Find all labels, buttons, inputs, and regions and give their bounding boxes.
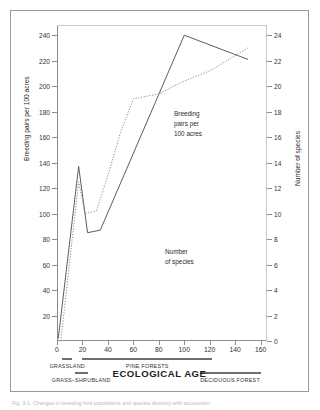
x-axis-title: ECOLOGICAL AGE: [11, 368, 308, 379]
x-tick-label: 80: [155, 346, 163, 353]
x-tick-label: 100: [179, 346, 190, 353]
x-tick: [261, 341, 262, 345]
y-tick-label-left: 240: [39, 32, 50, 39]
y-tick-right: [267, 86, 272, 87]
x-tick: [82, 341, 83, 345]
x-tick-label: 20: [79, 346, 87, 353]
x-tick: [184, 341, 185, 345]
y-tick-label-right: 10: [274, 210, 281, 217]
x-tick-label: 0: [55, 346, 59, 353]
y-tick-label-left: 200: [39, 83, 50, 90]
y-tick-label-right: 16: [274, 134, 281, 141]
y-tick-label-left: 180: [39, 108, 50, 115]
y-tick-right: [267, 112, 272, 113]
y-tick-label-left: 60: [43, 261, 50, 268]
y-tick-right: [267, 341, 272, 342]
y-tick-right: [267, 137, 272, 138]
y-tick-right: [267, 239, 272, 240]
annotation-line: Number: [165, 247, 194, 257]
habitat-band-bar: [82, 358, 212, 360]
y-tick-label-right: 18: [274, 108, 281, 115]
y-tick-right: [267, 214, 272, 215]
y-tick-label-right: 22: [274, 57, 281, 64]
annotation-line: Breeding: [174, 109, 202, 119]
x-tick-label: 140: [230, 346, 241, 353]
y-tick-label-left: 100: [39, 210, 50, 217]
y-tick-label-right: 0: [274, 338, 278, 345]
x-tick: [108, 341, 109, 345]
y-tick-label-right: 20: [274, 83, 281, 90]
y-tick-right: [267, 265, 272, 266]
x-tick-label: 160: [255, 346, 266, 353]
y-tick-label-right: 12: [274, 185, 281, 192]
plot-area: 20406080100120140160180200220240 0246810…: [57, 25, 267, 341]
x-tick-label: 120: [204, 346, 215, 353]
y-tick-label-right: 14: [274, 159, 281, 166]
y-tick-right: [267, 61, 272, 62]
y-tick-label-right: 6: [274, 261, 278, 268]
x-tick: [235, 341, 236, 345]
y-tick-label-left: 120: [39, 185, 50, 192]
annotation-breeding-pairs: Breedingpairs per100 acres: [174, 109, 202, 139]
y-tick-label-left: 160: [39, 134, 50, 141]
series-line-number-of-species: [61, 48, 248, 341]
y-tick-right: [267, 188, 272, 189]
y-tick-right: [267, 163, 272, 164]
x-tick-label: 40: [104, 346, 112, 353]
habitat-band-bar: [62, 358, 72, 360]
y-tick-label-right: 2: [274, 312, 278, 319]
data-series-lines: [57, 25, 267, 341]
series-line-breeding-pairs: [58, 35, 248, 338]
y-tick-label-right: 24: [274, 32, 281, 39]
y-tick-label-left: 140: [39, 159, 50, 166]
y-tick-label-left: 40: [43, 287, 50, 294]
y-tick-label-right: 4: [274, 287, 278, 294]
annotation-line: pairs per: [174, 119, 202, 129]
y-tick-label-left: 20: [43, 312, 50, 319]
y-axis-right-title: Number of species: [294, 131, 301, 186]
annotation-line: of species: [165, 257, 194, 267]
x-tick: [159, 341, 160, 345]
y-tick-label-right: 8: [274, 236, 278, 243]
annotation-number-of-species: Numberof species: [165, 247, 194, 267]
figure-caption: Fig. 3-1. Changes in breeding bird popul…: [12, 400, 316, 407]
y-tick-label-left: 220: [39, 57, 50, 64]
y-tick-label-left: 80: [43, 236, 50, 243]
y-tick-right: [267, 290, 272, 291]
x-tick: [133, 341, 134, 345]
figure-panel: 20406080100120140160180200220240 0246810…: [10, 10, 309, 392]
y-axis-left-title: Breeding pairs per 100 acres: [23, 76, 30, 161]
y-tick-right: [267, 35, 272, 36]
y-tick-right: [267, 316, 272, 317]
x-tick-label: 60: [130, 346, 138, 353]
annotation-line: 100 acres: [174, 129, 202, 139]
x-tick: [57, 341, 58, 345]
x-tick: [210, 341, 211, 345]
